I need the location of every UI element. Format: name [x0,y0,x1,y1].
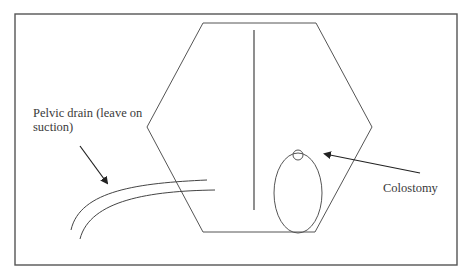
drain-pointer-arrow [80,146,107,183]
pelvic-drain-label: Pelvic drain (leave on suction) [33,106,183,134]
outer-frame [15,14,457,265]
pelvic-drain-tube-outer [71,180,207,230]
colostomy-pointer-arrow [325,154,420,173]
diagram-canvas [0,0,470,280]
stoma-opening-icon [293,150,303,160]
colostomy-stoma-oval [274,153,322,233]
colostomy-label: Colostomy [383,181,438,195]
